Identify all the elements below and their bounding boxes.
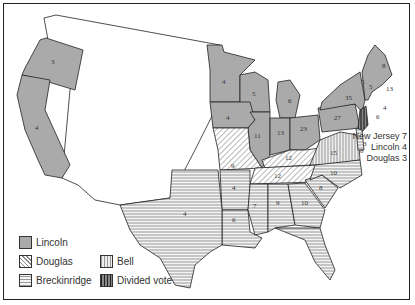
svg-text:6: 6 [232, 216, 236, 224]
state-mississippi [248, 184, 268, 235]
legend-douglas: Douglas [19, 255, 73, 268]
svg-text:6: 6 [288, 97, 292, 105]
svg-text:10: 10 [301, 199, 309, 207]
state-new-york [320, 72, 365, 112]
legend-bell: Bell [100, 255, 134, 268]
svg-text:13: 13 [277, 129, 285, 137]
svg-text:8: 8 [319, 184, 323, 192]
svg-text:4: 4 [383, 104, 387, 112]
state-new-jersey [358, 106, 368, 132]
svg-text:4: 4 [226, 114, 230, 122]
svg-text:5: 5 [369, 83, 373, 91]
bell-swatch [100, 255, 113, 268]
svg-text:9: 9 [231, 162, 235, 170]
svg-text:13: 13 [386, 85, 394, 93]
svg-text:9: 9 [276, 199, 280, 207]
breckinridge-swatch [19, 274, 32, 287]
state-california [17, 75, 70, 178]
state-florida [275, 228, 335, 280]
svg-text:4: 4 [35, 124, 39, 132]
svg-text:4: 4 [183, 210, 187, 218]
legend-divided: Divided vote [100, 274, 172, 287]
svg-text:4: 4 [232, 184, 236, 192]
svg-text:27: 27 [334, 114, 342, 122]
douglas-swatch [19, 255, 32, 268]
legend-lincoln: Lincoln [19, 236, 68, 249]
svg-text:15: 15 [330, 149, 338, 157]
nj-lincoln: Lincoln 4 [352, 142, 407, 153]
svg-text:12: 12 [285, 154, 293, 162]
svg-text:10: 10 [330, 169, 338, 177]
svg-text:4: 4 [222, 78, 226, 86]
svg-text:8: 8 [382, 62, 386, 70]
state-iowa [210, 102, 255, 128]
divided-swatch [100, 274, 113, 287]
svg-text:5: 5 [361, 78, 365, 86]
legend-breckinridge: Breckinridge [19, 274, 92, 287]
svg-text:6: 6 [376, 113, 380, 121]
nj-douglas: Douglas 3 [352, 153, 407, 164]
svg-text:7: 7 [253, 202, 257, 210]
svg-text:12: 12 [274, 172, 282, 180]
svg-text:5: 5 [252, 90, 256, 98]
svg-text:23: 23 [300, 125, 308, 133]
svg-text:3: 3 [51, 58, 55, 66]
nj-total: New Jersey 7 [352, 131, 407, 142]
svg-text:35: 35 [345, 94, 353, 102]
svg-text:11: 11 [254, 132, 261, 140]
new-jersey-note: New Jersey 7 Lincoln 4 Douglas 3 [352, 131, 407, 164]
lincoln-swatch [19, 236, 32, 249]
